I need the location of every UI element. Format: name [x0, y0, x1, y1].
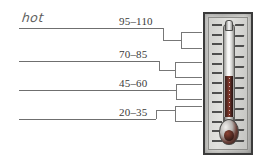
thermometer-bulb [219, 119, 239, 145]
connector-2-bracket-spine [175, 62, 176, 78]
connector-3-arm-bottom [176, 99, 202, 100]
thermometer-tick [235, 108, 245, 110]
connector-4-vertical-step [156, 110, 157, 119]
thermometer-tick [212, 72, 222, 74]
thermometer-tick [235, 35, 245, 37]
thermometer-tick [235, 24, 245, 26]
thermometer-tick [212, 111, 222, 113]
thermometer-tick [212, 121, 222, 123]
thermometer-tick [235, 119, 245, 121]
connector-4-arm-top [175, 106, 202, 107]
thermometer-tick [212, 92, 222, 94]
thermometer-tick [212, 24, 222, 26]
thermometer-tick [212, 101, 222, 103]
range-underline-3 [117, 90, 169, 91]
thermometer-tube-cap [225, 20, 233, 31]
connector-1-arm-top [181, 32, 202, 33]
range-label-2: 70–85 [119, 48, 148, 60]
thermometer-tick [235, 87, 245, 89]
thermometer-tick [212, 34, 222, 36]
connector-2-horizontal-step [159, 70, 175, 71]
thermometer-illustration [203, 12, 253, 155]
thermometer-face [208, 17, 248, 150]
thermometer-frame [203, 12, 253, 155]
connector-2-arm-bottom [175, 77, 202, 78]
connector-1-horizontal-step [163, 40, 181, 41]
range-underline-2 [117, 61, 159, 62]
thermometer-tick [212, 82, 222, 84]
connector-4-horizontal-step [156, 110, 175, 111]
thermometer-tick [235, 98, 245, 100]
connector-1-bracket-spine [181, 32, 182, 49]
connector-4-arm-bottom [175, 121, 202, 122]
connector-4-bracket-spine [175, 106, 176, 122]
answer-blank-line-3[interactable] [19, 90, 117, 91]
thermometer-tick [212, 63, 222, 65]
thermometer-bulb-core [224, 130, 234, 141]
answer-blank-line-1[interactable] [19, 28, 117, 29]
thermometer-tick [235, 45, 245, 47]
thermometer-tick [235, 56, 245, 58]
connector-1-arm-bottom [181, 48, 202, 49]
connector-3-bracket-spine [176, 84, 177, 100]
thermometer-tick [235, 66, 245, 68]
range-label-1: 95–110 [119, 15, 153, 27]
thermometer-tick [212, 53, 222, 55]
range-label-3: 45–60 [119, 77, 148, 89]
connector-3-arm-top [176, 84, 202, 85]
range-underline-4 [117, 119, 156, 120]
range-label-4: 20–35 [119, 106, 148, 118]
connector-2-arm-top [175, 62, 202, 63]
worksheet-page: hot 95–110 70–85 45–60 20–35 [0, 0, 259, 165]
thermometer-tick [212, 43, 222, 45]
answer-blank-line-2[interactable] [19, 61, 117, 62]
answer-handwriting-1[interactable]: hot [21, 10, 44, 25]
connector-3-horizontal-step [169, 90, 176, 91]
range-underline-1 [117, 28, 164, 29]
thermometer-tick [235, 77, 245, 79]
answer-blank-line-4[interactable] [19, 119, 117, 120]
